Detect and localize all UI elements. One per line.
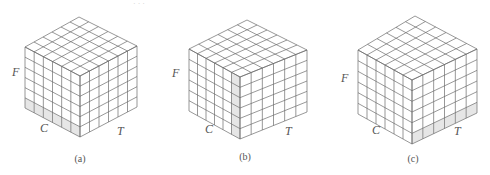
axis-label-t: T [454,124,462,138]
axis-label-f: F [11,65,20,79]
panel-b-cube: FCT(b) [171,20,307,163]
panel-caption: (c) [407,153,418,165]
grid-line [223,40,287,68]
axis-label-c: C [205,122,214,136]
panel-caption: (b) [239,151,251,163]
header-fragment: · · · [133,0,145,8]
panel-c-cube: FCT(c) [340,16,477,165]
axis-label-c: C [40,121,49,135]
axis-label-c: C [372,123,381,137]
panel-a-cube: FCT(a) [11,17,137,165]
axis-label-t: T [117,124,125,138]
axis-label-f: F [171,66,180,80]
axis-label-f: F [340,71,349,85]
figure-three-cubes: · · · FCT(a) FCT(b) FCT(c) [0,0,490,175]
panel-caption: (a) [74,153,85,165]
axis-label-t: T [285,124,293,138]
